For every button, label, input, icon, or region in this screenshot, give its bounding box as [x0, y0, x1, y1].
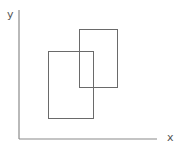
- rectangle-a: [49, 52, 94, 119]
- overlap-diagram: y x: [0, 0, 183, 149]
- rectangle-b: [80, 30, 118, 88]
- x-axis-label: x: [167, 131, 174, 144]
- y-axis-label: y: [7, 8, 14, 21]
